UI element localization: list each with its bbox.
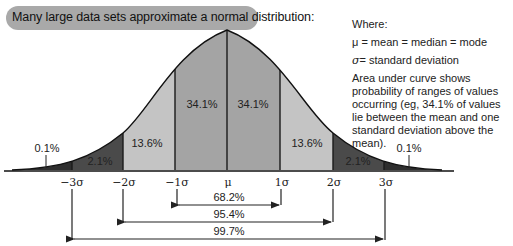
curve-regions	[0, 0, 454, 171]
normal-distribution-diagram: 34.1% 34.1% 13.6% 13.6% 2.1% 2.1% 0.1% 0…	[0, 0, 513, 246]
range-two-sigma: 95.4%	[213, 208, 244, 220]
tick-plus-1-sigma: 1σ	[275, 176, 290, 189]
label-m3-m2: 2.1%	[87, 155, 112, 167]
tick-minus-1-sigma: −1σ	[165, 176, 189, 189]
label-mu-p1: 34.1%	[237, 98, 268, 110]
tick-plus-3-sigma: 3σ	[379, 176, 394, 189]
label-tail-right: 0.1%	[396, 142, 421, 154]
region-m1-mu	[175, 0, 227, 171]
region-mu-p1	[227, 0, 280, 171]
label-tail-left: 0.1%	[34, 142, 59, 154]
tick-mu: μ	[224, 176, 231, 189]
label-m1-mu: 34.1%	[186, 98, 217, 110]
range-one-sigma: 68.2%	[213, 191, 244, 203]
tick-minus-2-sigma: −2σ	[112, 176, 136, 189]
tick-minus-3-sigma: −3σ	[60, 176, 84, 189]
tick-plus-2-sigma: 2σ	[327, 176, 342, 189]
label-p1-p2: 13.6%	[291, 137, 322, 149]
label-m2-m1: 13.6%	[131, 137, 162, 149]
region-m3-m2	[72, 0, 123, 171]
range-three-sigma: 99.7%	[213, 225, 244, 237]
label-p2-p3: 2.1%	[345, 155, 370, 167]
region-p2-p3	[333, 0, 384, 171]
axis-ticks: −3σ −2σ −1σ μ 1σ 2σ 3σ	[60, 176, 394, 189]
